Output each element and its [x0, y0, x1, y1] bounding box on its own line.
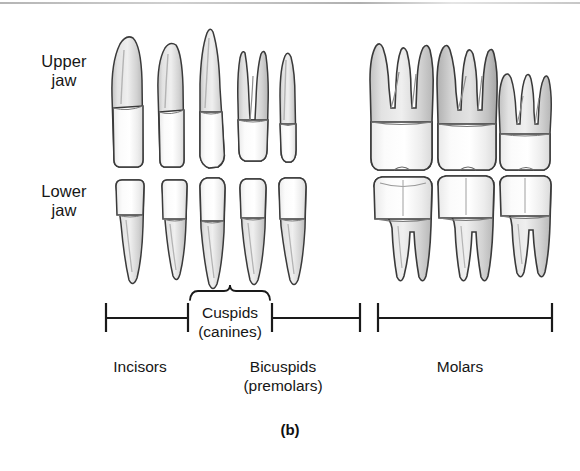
- cuspids-curly-brace: [190, 285, 270, 300]
- tooth-types-figure: Upper jaw Lower jaw: [0, 0, 580, 471]
- group-brackets: [0, 0, 580, 471]
- panel-caption: (b): [0, 421, 580, 438]
- group-label-bicuspids: Bicuspids (premolars): [218, 357, 348, 395]
- group-label-molars: Molars: [400, 357, 520, 376]
- group-label-cuspids: Cuspids (canines): [182, 303, 278, 341]
- group-label-incisors: Incisors: [80, 357, 200, 376]
